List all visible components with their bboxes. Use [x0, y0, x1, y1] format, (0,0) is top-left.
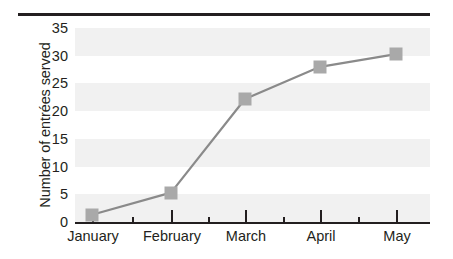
plot-area: Number of entrées served 35 30 25 20 15 …	[75, 28, 430, 222]
y-tick-label-10: 10	[52, 159, 68, 175]
y-tick-label-15: 15	[52, 131, 68, 147]
y-tick-label-35: 35	[52, 20, 68, 36]
data-point-april	[314, 60, 327, 73]
data-point-february	[165, 186, 178, 199]
x-tick-label-may: May	[383, 228, 410, 244]
data-point-march	[239, 92, 252, 105]
chart-figure: Number of entrées served 35 30 25 20 15 …	[0, 0, 453, 259]
top-rule-divider	[18, 13, 430, 16]
y-tick-label-20: 20	[52, 103, 68, 119]
x-axis-line	[75, 222, 430, 224]
x-tick-label-february: February	[143, 228, 201, 244]
series-line	[75, 28, 430, 222]
x-tick-label-april: April	[306, 228, 335, 244]
x-tick-label-march: March	[226, 228, 266, 244]
y-tick-label-5: 5	[60, 186, 68, 202]
y-tick-label-25: 25	[52, 75, 68, 91]
x-tick-label-january: January	[67, 228, 119, 244]
y-tick-label-30: 30	[52, 48, 68, 64]
data-point-january	[86, 208, 99, 221]
data-point-may	[390, 48, 403, 61]
